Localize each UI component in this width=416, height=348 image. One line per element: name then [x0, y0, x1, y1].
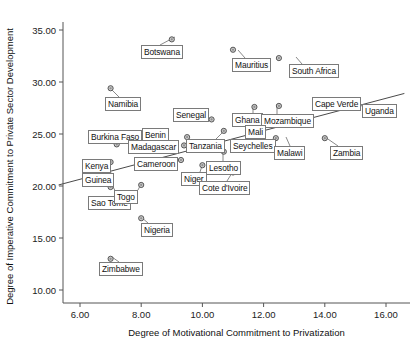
data-point[interactable]: Namibia	[108, 86, 113, 91]
y-axis-tick-label: 20.00	[32, 181, 56, 192]
point-label[interactable]: Kenya	[82, 159, 111, 173]
point-label[interactable]: Togo	[114, 190, 138, 204]
data-point-center	[140, 184, 142, 186]
point-label[interactable]: Cape Verde	[312, 97, 361, 111]
data-point[interactable]: Cameroon	[178, 157, 183, 162]
point-label[interactable]: Mozambique	[261, 114, 314, 128]
label-leader-line	[286, 137, 290, 146]
y-axis-tick-label: 30.00	[32, 77, 56, 88]
x-axis-tick-label: 16.00	[374, 309, 398, 320]
point-label[interactable]: Mauritius	[232, 58, 271, 72]
data-point[interactable]: Togo	[139, 182, 144, 187]
x-axis-tick-label: 6.00	[71, 309, 90, 320]
point-label[interactable]: Madagascar	[128, 140, 179, 154]
data-point-center	[183, 144, 185, 146]
x-axis-tick-label: 10.00	[191, 309, 215, 320]
x-axis-tick-label: 14.00	[313, 309, 337, 320]
point-label[interactable]: Malawi	[274, 146, 305, 160]
data-point-center	[171, 38, 173, 40]
data-point-center	[223, 130, 225, 132]
point-label[interactable]: Nigeria	[141, 223, 173, 237]
point-label[interactable]: Botswana	[141, 45, 183, 59]
point-label[interactable]: Cote d'Ivoire	[199, 181, 250, 195]
data-point[interactable]: Zimbabwe	[108, 256, 113, 261]
data-point-center	[110, 258, 112, 260]
point-label[interactable]: Mali	[245, 125, 266, 139]
point-label[interactable]: Seychelles	[230, 139, 276, 153]
point-label[interactable]: Guinea	[82, 173, 114, 187]
data-point[interactable]: Zambia	[322, 136, 327, 141]
data-point-center	[253, 106, 255, 108]
data-point[interactable]: Niger	[200, 163, 205, 168]
data-point-center	[278, 105, 280, 107]
x-axis-tick-label: 8.00	[132, 309, 151, 320]
data-point-center	[110, 87, 112, 89]
data-point-center	[278, 57, 280, 59]
y-axis-title: Degree of Imperative Commitment to Priva…	[4, 28, 15, 305]
point-label[interactable]: Cameroon	[134, 157, 178, 171]
y-axis-tick-label: 10.00	[32, 285, 56, 296]
label-leader-line	[238, 50, 245, 58]
data-point[interactable]: Ghana	[252, 104, 257, 109]
point-label[interactable]: Zimbabwe	[99, 262, 143, 276]
data-point[interactable]: Nigeria	[139, 216, 144, 221]
y-axis-tick-label: 15.00	[32, 233, 56, 244]
x-axis-tick-label: 12.00	[252, 309, 276, 320]
data-point-center	[210, 118, 212, 120]
point-label[interactable]: Zambia	[330, 146, 363, 160]
data-point-center	[201, 164, 203, 166]
label-leader-line	[296, 57, 302, 64]
point-label[interactable]: South Africa	[289, 64, 339, 78]
label-leader-line	[112, 90, 119, 97]
data-point-center	[140, 217, 142, 219]
data-point[interactable]: South Africa	[276, 55, 281, 60]
x-axis-title: Degree of Motivational Commitment to Pri…	[128, 327, 344, 338]
data-point-center	[186, 136, 188, 138]
scatter-chart: 10.0015.0020.0025.0030.0035.006.008.0010…	[0, 0, 416, 348]
point-label[interactable]: Uganda	[362, 104, 397, 118]
data-point-center	[180, 159, 182, 161]
data-point-center	[324, 137, 326, 139]
point-label[interactable]: Tanzania	[186, 139, 225, 153]
data-point[interactable]: Botswana	[169, 37, 174, 42]
y-axis-tick-label: 35.00	[32, 25, 56, 36]
y-axis-tick-label: 25.00	[32, 129, 56, 140]
data-point[interactable]: Senegal	[209, 117, 214, 122]
point-label[interactable]: Senegal	[173, 108, 209, 122]
data-point-center	[232, 49, 234, 51]
data-point[interactable]: Mauritius	[230, 47, 235, 52]
point-label[interactable]: Lesotho	[206, 161, 241, 175]
data-point[interactable]: Tanzania	[221, 128, 226, 133]
point-label[interactable]: Namibia	[105, 97, 141, 111]
data-point[interactable]: Mozambique	[276, 103, 281, 108]
